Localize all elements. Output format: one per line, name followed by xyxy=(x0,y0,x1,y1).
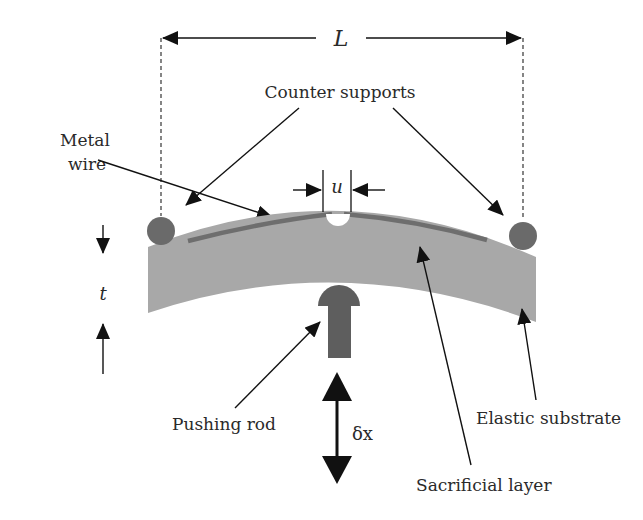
counter-support-right xyxy=(509,222,537,250)
counter-support-left xyxy=(147,217,175,245)
pushing-rod-arrow-icon xyxy=(235,322,320,408)
thickness-dimension: t xyxy=(99,225,107,374)
sacrificial-layer-label: Sacrificial layer xyxy=(416,475,552,495)
span-length-label: L xyxy=(333,26,349,51)
displacement-arrow-icon xyxy=(322,372,352,484)
pushing-rod-label: Pushing rod xyxy=(172,414,276,434)
metal-wire-label-line1: Metal xyxy=(60,130,110,150)
elastic-substrate-arrow-icon xyxy=(522,309,536,400)
thickness-label: t xyxy=(99,283,107,304)
metal-wire-label-line2: wire xyxy=(68,154,106,174)
pushing-rod-stem xyxy=(328,305,351,358)
displacement-label: δx xyxy=(352,423,373,444)
pushing-rod-head xyxy=(318,285,360,306)
metal-wire-arrow-icon xyxy=(98,160,272,217)
bending-test-diagram: L Counter supports Metal wire u t Pushin… xyxy=(0,0,643,520)
gap-label: u xyxy=(331,176,343,197)
gap-dimension: u xyxy=(293,170,385,212)
counter-supports-arrow-right-icon xyxy=(393,108,503,215)
elastic-substrate-label: Elastic substrate xyxy=(476,408,621,428)
pushing-rod xyxy=(318,285,360,358)
counter-supports-label: Counter supports xyxy=(265,82,416,102)
counter-supports-arrow-left-icon xyxy=(186,108,299,205)
